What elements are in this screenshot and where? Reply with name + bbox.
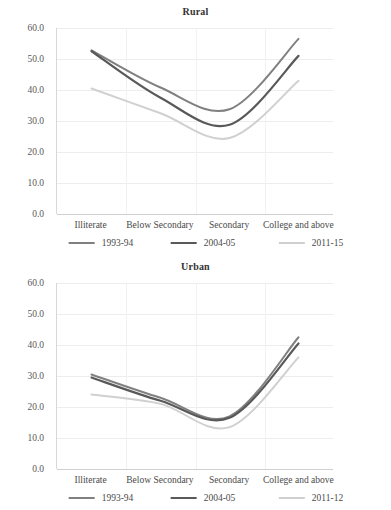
legend-label: 2011-15 <box>312 238 343 248</box>
y-axis-tick-label: 20.0 <box>27 147 44 157</box>
y-axis-tick-label: 30.0 <box>27 116 44 126</box>
x-axis-category-label: Below Secondary <box>126 220 193 230</box>
y-axis-tick-label: 20.0 <box>27 402 44 412</box>
y-axis-tick-label: 60.0 <box>27 23 44 33</box>
series-line-1993-94 <box>92 337 299 419</box>
axis-baseline <box>57 214 333 215</box>
y-axis-tick-label: 10.0 <box>27 433 44 443</box>
x-axis-category-label: College and above <box>263 475 334 485</box>
x-axis-category-label: Secondary <box>209 220 249 230</box>
chart-figure-urban: Urban 0.010.020.030.040.050.060.0 Illite… <box>0 255 391 510</box>
y-axis-tick-label: 50.0 <box>27 309 44 319</box>
series-lines-urban <box>57 283 333 469</box>
y-axis-tick-label: 40.0 <box>27 85 44 95</box>
plot-area-rural <box>56 28 333 214</box>
x-axis-labels-rural: IlliterateBelow SecondarySecondaryColleg… <box>56 220 333 236</box>
series-line-2011-15 <box>92 81 299 139</box>
chart-legend-urban: 1993-942004-052011-12 <box>0 493 391 509</box>
y-axis-tick-label: 0.0 <box>32 464 44 474</box>
chart-legend-rural: 1993-942004-052011-15 <box>0 238 391 254</box>
y-axis-tick-label: 60.0 <box>27 278 44 288</box>
x-axis-category-label: Illiterate <box>75 220 107 230</box>
legend-label: 2011-12 <box>312 493 343 503</box>
series-line-2004-05 <box>92 343 299 420</box>
x-axis-category-label: Illiterate <box>75 475 107 485</box>
legend-line-swatch <box>279 242 305 244</box>
legend-line-swatch <box>279 497 305 499</box>
chart-title-urban: Urban <box>0 261 391 272</box>
legend-item[interactable]: 2011-15 <box>279 238 343 248</box>
y-axis-labels-urban: 0.010.020.030.040.050.060.0 <box>0 283 50 469</box>
legend-label: 1993-94 <box>102 493 134 503</box>
legend-item[interactable]: 2011-12 <box>279 493 343 503</box>
plot-frame-urban <box>56 283 333 469</box>
legend-label: 2004-05 <box>204 493 236 503</box>
y-axis-tick-label: 40.0 <box>27 340 44 350</box>
y-axis-tick-label: 50.0 <box>27 54 44 64</box>
series-line-2011-12 <box>92 357 299 428</box>
chart-figure-rural: Rural 0.010.020.030.040.050.060.0 Illite… <box>0 0 391 255</box>
y-axis-tick-label: 10.0 <box>27 178 44 188</box>
legend-line-swatch <box>171 497 197 499</box>
x-axis-category-label: Below Secondary <box>126 475 193 485</box>
y-axis-tick-label: 30.0 <box>27 371 44 381</box>
legend-line-swatch <box>69 242 95 244</box>
plot-area-urban <box>56 283 333 469</box>
series-lines-rural <box>57 28 333 214</box>
axis-baseline <box>57 469 333 470</box>
legend-line-swatch <box>69 497 95 499</box>
y-axis-tick-label: 0.0 <box>32 209 44 219</box>
plot-frame-rural <box>56 28 333 214</box>
chart-title-rural: Rural <box>0 6 391 17</box>
legend-item[interactable]: 2004-05 <box>171 238 236 248</box>
series-line-2004-05 <box>92 51 299 126</box>
y-axis-labels-rural: 0.010.020.030.040.050.060.0 <box>0 28 50 214</box>
legend-label: 2004-05 <box>204 238 236 248</box>
legend-label: 1993-94 <box>102 238 134 248</box>
x-axis-category-label: Secondary <box>209 475 249 485</box>
legend-item[interactable]: 1993-94 <box>69 493 134 503</box>
legend-item[interactable]: 2004-05 <box>171 493 236 503</box>
x-axis-category-label: College and above <box>263 220 334 230</box>
legend-item[interactable]: 1993-94 <box>69 238 134 248</box>
x-axis-labels-urban: IlliterateBelow SecondarySecondaryColleg… <box>56 475 333 491</box>
legend-line-swatch <box>171 242 197 244</box>
